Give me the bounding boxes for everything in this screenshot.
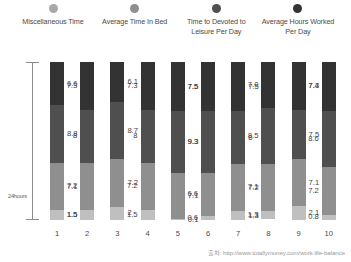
bar-segment[interactable]: [80, 110, 94, 163]
bar-segment[interactable]: [322, 111, 336, 168]
bar-segment[interactable]: [231, 164, 245, 211]
bar-value-label: 7.0: [248, 80, 259, 89]
bar-segment[interactable]: [201, 216, 215, 220]
bar-segment[interactable]: [322, 62, 336, 111]
bar-segment[interactable]: [322, 167, 336, 214]
bar-column-7[interactable]: 7.587.21.3: [231, 62, 245, 220]
x-axis-tick-7: 7: [228, 229, 248, 238]
bar-value-label: 8.6: [308, 134, 319, 143]
bar-segment[interactable]: [141, 163, 155, 210]
bar-segment[interactable]: [292, 206, 306, 220]
bar-column-10[interactable]: 7.48.67.20.8: [322, 62, 336, 220]
bar-column-2[interactable]: 7.387.21.5: [80, 62, 94, 220]
legend-item-label: Average Time In Bed: [102, 17, 167, 27]
bar-segment[interactable]: [110, 159, 124, 206]
bar-segment[interactable]: [50, 62, 64, 105]
legend-item-label: Time to Devoted to Leisure Per Day: [177, 17, 255, 36]
bar-segment[interactable]: [141, 62, 155, 110]
bar-segment[interactable]: [171, 173, 185, 220]
bar-segment[interactable]: [50, 210, 64, 220]
bar-column-9[interactable]: 7.37.57.12.1: [292, 62, 306, 220]
x-axis-tick-3: 3: [107, 229, 127, 238]
legend-item-label: Miscellaneous Time: [22, 17, 83, 27]
bar-column-4[interactable]: 7.387.21.5: [141, 62, 155, 220]
bar-segment[interactable]: [322, 215, 336, 220]
y-axis-label: 24hours: [8, 193, 27, 199]
y-axis-bracket: [26, 62, 40, 220]
bar-segment[interactable]: [261, 62, 275, 108]
legend-item-hours-worked-per-day: Average Hours Worked Per Day: [259, 4, 337, 36]
chart-legend: Miscellaneous Time Average Time In Bed T…: [0, 4, 351, 36]
x-axis-tick-2: 2: [77, 229, 97, 238]
bar-segment[interactable]: [261, 211, 275, 220]
bar-segment[interactable]: [80, 210, 94, 220]
bar-segment[interactable]: [50, 105, 64, 163]
bar-value-label: 7.2: [127, 181, 138, 190]
x-axis-tick-1: 1: [47, 229, 67, 238]
bar-segment[interactable]: [261, 164, 275, 211]
legend-item-leisure-per-day: Time to Devoted to Leisure Per Day: [177, 4, 255, 36]
x-axis-tick-9: 9: [289, 229, 309, 238]
bar-segment[interactable]: [201, 62, 215, 111]
bar-column-1[interactable]: 6.68.87.11.5: [50, 62, 64, 220]
bar-segment[interactable]: [141, 210, 155, 220]
legend-dot-icon: [293, 4, 302, 13]
bar-value-label: 7.5: [187, 82, 198, 91]
bar-segment[interactable]: [171, 62, 185, 111]
legend-item-label: Average Hours Worked Per Day: [259, 17, 337, 36]
bar-value-label: 7.2: [67, 181, 78, 190]
bar-value-label: 7.2: [308, 186, 319, 195]
legend-item-average-time-in-bed: Average Time In Bed: [96, 4, 174, 36]
axis-cap-bottom: [26, 219, 39, 220]
bar-segment[interactable]: [110, 207, 124, 220]
x-axis-tick-6: 6: [198, 229, 218, 238]
bar-value-label: 8: [73, 131, 77, 140]
source-note: 출처: http://www.totallymoney.com/work-lif…: [208, 248, 345, 257]
axis-line: [32, 62, 33, 220]
x-axis-tick-10: 10: [319, 229, 339, 238]
bar-value-label: 7.1: [248, 182, 259, 191]
bar-segment[interactable]: [292, 110, 306, 159]
bar-column-6[interactable]: 7.59.36.60.6: [201, 62, 215, 220]
bar-value-label: 6.6: [187, 189, 198, 198]
bar-value-label: 7.3: [127, 81, 138, 90]
bar-segment[interactable]: [110, 102, 124, 159]
x-axis-tick-5: 5: [168, 229, 188, 238]
x-axis-tick-8: 8: [258, 229, 278, 238]
bar-segment[interactable]: [171, 219, 185, 220]
x-axis-tick-labels: 12345678910: [0, 229, 351, 243]
bar-value-label: 7.3: [67, 81, 78, 90]
bar-segment[interactable]: [110, 62, 124, 102]
bar-segment[interactable]: [201, 111, 215, 172]
bar-column-3[interactable]: 6.18.77.22: [110, 62, 124, 220]
bar-segment[interactable]: [80, 163, 94, 210]
legend-item-miscellaneous-time: Miscellaneous Time: [14, 4, 92, 36]
bar-column-5[interactable]: 7.59.37.10.1: [171, 62, 185, 220]
bar-value-label: 8: [133, 131, 137, 140]
bar-segment[interactable]: [231, 111, 245, 164]
legend-dot-icon: [212, 4, 221, 13]
bar-column-8[interactable]: 7.08.57.11.3: [261, 62, 275, 220]
chart-plot-area: 24hours 6.68.87.11.57.387.21.56.18.77.22…: [0, 60, 351, 230]
bar-segment[interactable]: [231, 62, 245, 111]
bar-segment[interactable]: [292, 62, 306, 110]
bar-segment[interactable]: [201, 173, 215, 216]
bar-value-label: 9.3: [187, 137, 198, 146]
bar-segment[interactable]: [231, 211, 245, 220]
bar-segment[interactable]: [80, 62, 94, 110]
bar-value-label: 0.6: [187, 213, 198, 222]
bar-value-label: 1.5: [127, 210, 138, 219]
bar-value-label: 8.5: [248, 131, 259, 140]
bar-value-label: 7.4: [308, 81, 319, 90]
bar-segment[interactable]: [261, 108, 275, 164]
legend-dot-icon: [49, 4, 58, 13]
x-axis-tick-4: 4: [138, 229, 158, 238]
legend-dot-icon: [130, 4, 139, 13]
bar-value-label: 1.5: [67, 210, 78, 219]
bar-segment[interactable]: [50, 163, 64, 210]
bar-segment[interactable]: [141, 110, 155, 163]
bar-segment[interactable]: [292, 159, 306, 206]
bar-value-label: 0.8: [308, 212, 319, 221]
bar-value-label: 1.3: [248, 210, 259, 219]
bar-segment[interactable]: [171, 111, 185, 172]
